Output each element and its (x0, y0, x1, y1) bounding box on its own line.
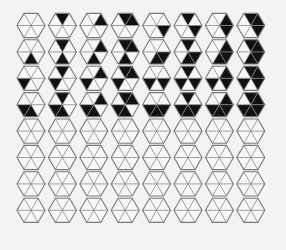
hexagon-grid-figure (0, 0, 286, 250)
hexagon-cell (80, 66, 108, 90)
hexagon-cell (48, 13, 76, 37)
hexagon-cell (205, 119, 233, 143)
hexagon-cell (48, 198, 76, 222)
hexagon-cell (143, 40, 171, 64)
hexagon-cell (174, 66, 202, 90)
hexagon-cell (174, 40, 202, 64)
hexagon-cell (143, 119, 171, 143)
hexagon-cell (143, 66, 171, 90)
hexagon-cell (80, 145, 108, 169)
hexagon-cell (17, 93, 45, 117)
hexagon-cell (143, 145, 171, 169)
hexagon-cell (17, 119, 45, 143)
hexagon-cell (174, 145, 202, 169)
hexagon-cell (48, 40, 76, 64)
hexagon-cell (80, 172, 108, 196)
hexagon-cell (237, 93, 265, 117)
hexagon-cell (111, 119, 139, 143)
hexagon-cell (111, 145, 139, 169)
hexagon-cell (174, 119, 202, 143)
hexagon-cell (205, 13, 233, 37)
hexagon-cell (174, 198, 202, 222)
hexagon-cell (80, 119, 108, 143)
hexagon-cell (48, 172, 76, 196)
hexagon-cell (174, 93, 202, 117)
hexagon-cell (17, 13, 45, 37)
hexagon-cell (237, 66, 265, 90)
hexagon-cell (143, 93, 171, 117)
hexagon-cell (17, 66, 45, 90)
hexagon-cell (143, 172, 171, 196)
hexagon-cell (48, 66, 76, 90)
hexagon-cell (237, 13, 265, 37)
hexagon-cell (48, 119, 76, 143)
hexagon-cell (80, 198, 108, 222)
hexagon-cell (111, 198, 139, 222)
hexagon-cell (205, 198, 233, 222)
hexagon-cell (174, 13, 202, 37)
hexagon-grid (0, 0, 286, 250)
hexagon-cell (80, 40, 108, 64)
hexagon-cell (17, 172, 45, 196)
hexagon-cell (237, 40, 265, 64)
hexagon-cell (143, 198, 171, 222)
hexagon-cell (237, 172, 265, 196)
hexagon-cell (111, 93, 139, 117)
hexagon-cell (48, 93, 76, 117)
hexagon-cell (111, 172, 139, 196)
hexagon-cell (111, 66, 139, 90)
hexagon-cell (205, 40, 233, 64)
hexagon-cell (143, 13, 171, 37)
hexagon-cell (80, 93, 108, 117)
hexagon-cell (111, 40, 139, 64)
hexagon-cell (205, 145, 233, 169)
hexagon-cell (174, 172, 202, 196)
hexagon-cell (237, 145, 265, 169)
hexagon-cell (237, 119, 265, 143)
hexagon-cell (111, 13, 139, 37)
hexagon-cell (17, 40, 45, 64)
hexagon-cell (17, 145, 45, 169)
hexagon-cell (205, 172, 233, 196)
hexagon-cell (80, 13, 108, 37)
hexagon-cell (17, 198, 45, 222)
hexagon-cell (205, 66, 233, 90)
hexagon-cell (205, 93, 233, 117)
hexagon-cell (237, 198, 265, 222)
hexagon-cell (48, 145, 76, 169)
